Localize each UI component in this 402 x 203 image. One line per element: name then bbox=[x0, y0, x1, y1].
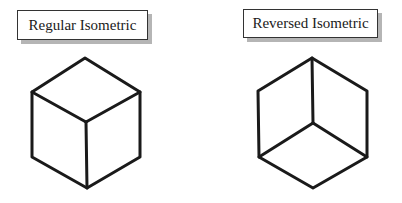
cube-diagrams bbox=[0, 0, 402, 203]
cube-inner-edge bbox=[259, 123, 313, 157]
cube-inner-edge bbox=[86, 122, 87, 188]
regular-isometric-cube bbox=[32, 58, 140, 188]
cube-inner-edge bbox=[313, 123, 367, 157]
cube-inner-edge bbox=[312, 58, 313, 123]
cube-inner-edge bbox=[32, 92, 86, 122]
cube-inner-edge bbox=[86, 92, 140, 122]
reversed-isometric-cube bbox=[258, 58, 367, 188]
